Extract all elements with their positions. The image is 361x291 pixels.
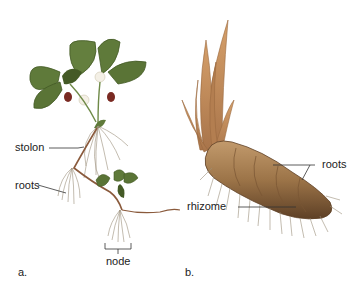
panel-letter-b: b. [185,266,194,278]
berry-icon [107,92,115,102]
stolon [74,128,122,210]
leaf-icon [124,173,138,184]
flower-icon [95,72,105,82]
leaf-icon [108,61,146,84]
label-roots-b: roots [322,159,346,170]
leaf-icon [118,184,125,198]
strawberry-plant [30,39,180,242]
panel-letter-a: a. [18,266,27,278]
illustration [0,0,361,291]
leaf-icon [62,69,82,84]
stem-modifications-figure: stolon roots node a. roots rhizome b. [0,0,361,291]
berry-icon [64,92,72,102]
label-node: node [106,256,130,267]
label-roots-a: roots [15,180,39,191]
label-stolon: stolon [15,142,44,153]
label-rhizome: rhizome [187,201,226,212]
